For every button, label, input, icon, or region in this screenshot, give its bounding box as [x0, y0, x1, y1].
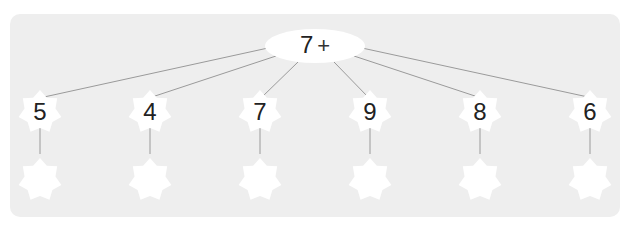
addend-2: 4	[130, 100, 170, 124]
addend-5: 8	[460, 100, 500, 124]
top-number: 7	[300, 31, 313, 58]
addend-3: 7	[240, 100, 280, 124]
top-expression: 7+	[265, 32, 365, 59]
addend-4: 9	[350, 100, 390, 124]
answer-stars	[19, 158, 612, 200]
plus-operator: +	[317, 33, 330, 58]
addend-6: 6	[570, 100, 610, 124]
addend-1: 5	[20, 100, 60, 124]
addend-stars	[19, 90, 612, 132]
connector-lines	[40, 48, 590, 154]
